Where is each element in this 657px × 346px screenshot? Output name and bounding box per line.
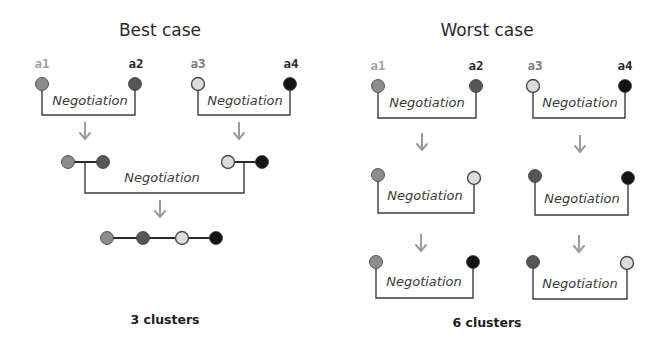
- negotiation-bracket-a3-a4: Negotiation: [192, 78, 297, 116]
- worst-case-cluster-count: 6 clusters: [452, 315, 521, 330]
- down-arrow-icon: [575, 135, 585, 152]
- negotiation-bracket-a1-a2: Negotiation: [372, 80, 483, 119]
- agent-label-a3: a3: [190, 56, 205, 71]
- negotiation-label: Negotiation: [542, 95, 618, 110]
- agent-node-a3: [527, 80, 540, 93]
- down-arrow-icon: [416, 234, 426, 251]
- agent-label-a4: a4: [283, 56, 298, 71]
- best-case-panel: Best case a1 a2 a3 a4 Negotiation Negoti…: [34, 20, 298, 327]
- negotiation-clustering-diagram: Best case a1 a2 a3 a4 Negotiation Negoti…: [0, 0, 657, 346]
- agent-node-a2: [527, 256, 540, 269]
- agent-node-a2: [470, 80, 483, 93]
- merged-cluster: [101, 232, 223, 245]
- agent-node-a2: [129, 78, 142, 91]
- agent-node-a4: [284, 78, 297, 91]
- agent-label-a2: a2: [468, 58, 483, 73]
- negotiation-bracket-a1-a3: Negotiation: [372, 169, 481, 214]
- agent-node-a2: [137, 232, 150, 245]
- negotiation-bracket-a3-a4: Negotiation: [527, 80, 632, 119]
- negotiation-bracket-cluster-merge: Negotiation: [62, 156, 269, 194]
- negotiation-label: Negotiation: [386, 274, 462, 289]
- agent-label-a3: a3: [527, 58, 542, 73]
- negotiation-bracket-a2-a3: Negotiation: [527, 256, 634, 300]
- agent-node-a4: [619, 80, 632, 93]
- down-arrow-icon: [417, 133, 427, 150]
- agent-node-a4: [210, 232, 223, 245]
- agent-node-a1: [370, 256, 383, 269]
- agent-node-a3: [468, 172, 481, 185]
- agent-node-a3: [192, 78, 205, 91]
- agent-node-a2: [97, 156, 110, 169]
- worst-case-panel: Worst case a1 a2 a3 a4 Negotiation Negot…: [370, 20, 635, 330]
- negotiation-label: Negotiation: [387, 188, 463, 203]
- agent-node-a1: [372, 80, 385, 93]
- best-case-title: Best case: [119, 20, 201, 40]
- agent-node-a4: [256, 156, 269, 169]
- best-case-cluster-count: 3 clusters: [130, 312, 199, 327]
- agent-node-a3: [176, 232, 189, 245]
- agent-node-a3: [621, 257, 634, 270]
- negotiation-label: Negotiation: [389, 95, 465, 110]
- agent-label-a2: a2: [128, 56, 143, 71]
- negotiation-bracket-a1-a4: Negotiation: [370, 256, 480, 299]
- down-arrow-icon: [234, 122, 244, 139]
- worst-case-title: Worst case: [440, 20, 533, 40]
- negotiation-label: Negotiation: [52, 93, 128, 108]
- negotiation-bracket-a1-a2: Negotiation: [36, 78, 142, 116]
- agent-node-a1: [36, 78, 49, 91]
- negotiation-label: Negotiation: [544, 191, 620, 206]
- agent-node-a1: [372, 169, 385, 182]
- down-arrow-icon: [80, 122, 90, 139]
- negotiation-label: Negotiation: [207, 93, 283, 108]
- agent-node-a4: [467, 256, 480, 269]
- negotiation-bracket-a2-a4: Negotiation: [529, 170, 635, 216]
- agent-node-a1: [101, 232, 114, 245]
- down-arrow-icon: [155, 200, 165, 217]
- agent-label-a1: a1: [34, 56, 49, 71]
- down-arrow-icon: [574, 235, 584, 252]
- agent-node-a1: [62, 156, 75, 169]
- agent-node-a4: [622, 172, 635, 185]
- agent-node-a3: [222, 156, 235, 169]
- agent-label-a4: a4: [617, 58, 632, 73]
- negotiation-label: Negotiation: [542, 276, 618, 291]
- negotiation-label: Negotiation: [124, 170, 200, 185]
- agent-label-a1: a1: [370, 58, 385, 73]
- agent-node-a2: [529, 170, 542, 183]
